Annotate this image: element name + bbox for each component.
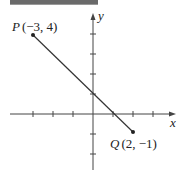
y-axis-label: y [96,8,104,23]
segment-pq [33,35,133,132]
point-p-label: P(−3, 4) [11,19,57,34]
coordinate-plane: x y P(−3, 4) Q(2, −1) [0,0,189,176]
point-q-label: Q(2, −1) [110,136,157,151]
x-axis-label: x [169,115,176,130]
point-q [131,130,135,134]
y-axis-arrow-icon [91,13,96,20]
